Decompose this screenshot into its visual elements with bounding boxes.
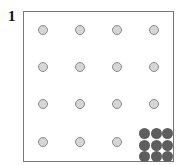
light-dot xyxy=(75,137,85,147)
light-dot xyxy=(149,25,159,35)
light-dot xyxy=(38,137,48,147)
light-dot xyxy=(149,99,159,109)
light-dot xyxy=(112,25,122,35)
light-dot xyxy=(38,25,48,35)
dark-dot xyxy=(162,128,173,139)
light-dot xyxy=(112,137,122,147)
light-dot xyxy=(38,99,48,109)
dark-dot xyxy=(139,140,150,151)
dark-dot xyxy=(162,151,173,162)
dark-dot xyxy=(151,140,162,151)
dark-dot xyxy=(139,128,150,139)
light-dot xyxy=(75,99,85,109)
light-dot xyxy=(38,62,48,72)
dark-dot xyxy=(139,151,150,162)
dark-dot xyxy=(151,151,162,162)
figure-number-label: 1 xyxy=(8,8,16,25)
light-dot xyxy=(112,99,122,109)
light-dot xyxy=(149,62,159,72)
dark-dot xyxy=(151,128,162,139)
dark-dot xyxy=(162,140,173,151)
light-dot xyxy=(75,25,85,35)
light-dot xyxy=(112,62,122,72)
light-dot xyxy=(75,62,85,72)
